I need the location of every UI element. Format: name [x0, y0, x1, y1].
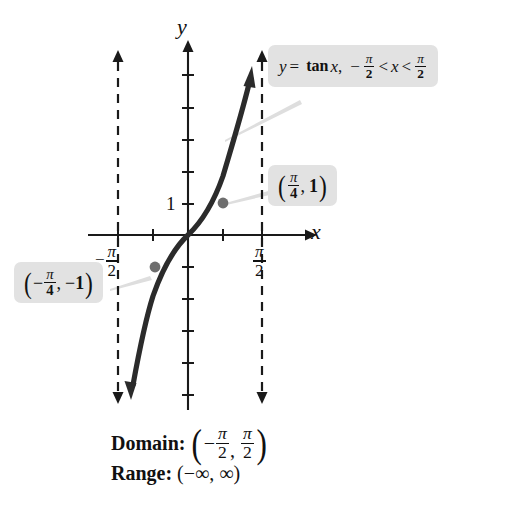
fraction-pi-over-4: π 4: [44, 267, 55, 298]
comma: ,: [300, 177, 305, 195]
y-axis-label: y: [177, 14, 187, 40]
asymptote-right: [257, 50, 268, 404]
less-than-sign-right: <: [402, 58, 412, 75]
x-tick-label-pi-over-2: π 2: [252, 243, 267, 279]
fraction-pi-over-2-right: π 2: [241, 425, 254, 462]
asymptote-right-arrow-top: [257, 50, 268, 62]
fraction-numerator: π: [216, 425, 229, 443]
point-callout-lower: (− π 4 ,−1): [14, 262, 103, 303]
minus-sign-x: −: [33, 274, 43, 292]
comma: ,: [230, 439, 235, 462]
fraction-denominator: 2: [241, 444, 254, 462]
fraction-denominator: 4: [288, 186, 299, 201]
x-axis: [88, 229, 317, 241]
asymptote-left-arrow-bottom: [113, 392, 124, 404]
point-callout-upper: ( π 4 ,1): [268, 165, 337, 206]
minus-sign-y: −: [65, 274, 75, 292]
equation-variable-middle: x: [391, 58, 399, 75]
comma: ,: [57, 274, 62, 292]
equation-variable: x: [330, 58, 338, 75]
domain-line: Domain: (− π 2 , π 2 ): [111, 425, 268, 462]
open-paren: (: [278, 174, 286, 197]
y-axis: [182, 40, 194, 410]
asymptote-left-arrow-top: [113, 50, 124, 62]
function-name: tan: [306, 58, 328, 74]
x-axis-label: x: [311, 219, 321, 245]
close-paren: ): [256, 428, 266, 459]
fraction-numerator: π: [288, 170, 299, 185]
leader-line-point-upper: [222, 190, 274, 206]
less-than-sign-left: <: [378, 58, 388, 75]
asymptote-left: [113, 50, 124, 404]
equation-callout: y = tan x, − π 2 < x < π 2: [268, 45, 438, 87]
fraction-numerator: π: [106, 243, 119, 260]
fraction-denominator: 2: [253, 262, 266, 279]
equals-sign: =: [290, 58, 300, 75]
asymptote-right-arrow-bottom: [257, 392, 268, 404]
equation-comma: ,: [338, 58, 342, 75]
fraction-pi-over-2-left: π 2: [216, 425, 229, 462]
fraction-numerator: π: [415, 52, 426, 66]
fraction-denominator: 2: [106, 262, 119, 279]
fraction-numerator: π: [44, 267, 55, 282]
fraction-numerator: π: [253, 243, 266, 260]
fraction-pi-over-4: π 4: [288, 170, 299, 201]
curve-arrow-top: [244, 66, 256, 88]
point-marker-neg-pi-over-4: [150, 262, 161, 273]
tangent-function-figure: 1 x y − π 2 π 2 y = tan x, − π 2 < x < π: [0, 0, 516, 510]
range-label: Range:: [111, 462, 172, 485]
fraction-numerator: π: [364, 52, 375, 66]
y-value: 1: [75, 274, 84, 292]
y-axis-arrow: [183, 40, 194, 52]
minus-sign: −: [350, 58, 360, 75]
fraction-denominator: 2: [364, 67, 375, 81]
y-tick-label-1: 1: [166, 194, 176, 213]
minus-sign: −: [204, 432, 215, 455]
fraction-denominator: 4: [44, 283, 55, 298]
close-paren: ): [319, 174, 327, 197]
range-line: Range: (−∞, ∞): [111, 462, 240, 485]
open-paren: (: [192, 428, 202, 459]
fraction-numerator: π: [241, 425, 254, 443]
tangent-curve: [125, 66, 256, 400]
fraction-pi-over-2: π 2: [106, 243, 119, 279]
curve-arrow-bottom: [125, 381, 137, 400]
fraction-pi-over-2-left: π 2: [364, 52, 375, 80]
domain-value: (− π 2 , π 2 ): [190, 425, 268, 462]
fraction-denominator: 2: [216, 444, 229, 462]
domain-label: Domain:: [111, 432, 185, 455]
open-paren: (: [24, 271, 32, 294]
y-value: 1: [309, 177, 318, 195]
point-marker-pi-over-4: [218, 198, 229, 209]
fraction-denominator: 2: [415, 67, 426, 81]
equation-lhs: y: [279, 58, 287, 75]
fraction-pi-over-2-right: π 2: [415, 52, 426, 80]
close-paren: ): [85, 271, 93, 294]
range-value: (−∞, ∞): [177, 462, 240, 485]
fraction-pi-over-2: π 2: [253, 243, 266, 279]
